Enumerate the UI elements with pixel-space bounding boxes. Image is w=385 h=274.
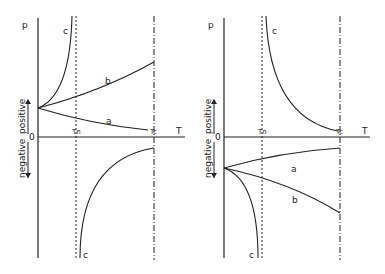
curve-c-lower-label: c (83, 250, 88, 260)
y-axis-label: p (208, 20, 214, 30)
tc-label: Tc (335, 128, 343, 136)
origin-label: 0 (29, 132, 35, 142)
curve-c-lower (224, 168, 258, 258)
tn-label: Tn (71, 128, 81, 136)
left-panel: p 0 T Tn Tc positive negative b a c c (17, 16, 185, 260)
negative-label: negative (17, 138, 27, 178)
curve-c-lower (80, 148, 154, 258)
curve-a-label: a (291, 164, 297, 174)
curve-c-upper-label: c (63, 26, 68, 36)
x-axis-label: T (175, 126, 182, 136)
x-axis-label: T (361, 126, 368, 136)
positive-label: positive (17, 98, 27, 134)
origin-label: 0 (215, 132, 221, 142)
curve-a (38, 108, 148, 130)
curve-a (224, 148, 340, 168)
curve-c-upper-label: c (272, 26, 277, 36)
negative-label: negative (203, 138, 213, 178)
tn-label: Tn (257, 128, 267, 136)
right-panel: p 0 T Tn Tc positive negative c a b c (203, 16, 370, 260)
curve-b (224, 168, 340, 213)
curve-b (38, 62, 154, 108)
phase-diagram-figure: p 0 T Tn Tc positive negative b a c c p … (0, 0, 385, 274)
tc-label: Tc (149, 128, 157, 136)
y-axis-label: p (22, 20, 28, 30)
positive-label: positive (203, 98, 213, 134)
curve-c-lower-label: c (249, 250, 254, 260)
curve-b-label: b (105, 76, 111, 86)
curve-a-label: a (106, 116, 112, 126)
curve-b-label: b (292, 195, 298, 205)
